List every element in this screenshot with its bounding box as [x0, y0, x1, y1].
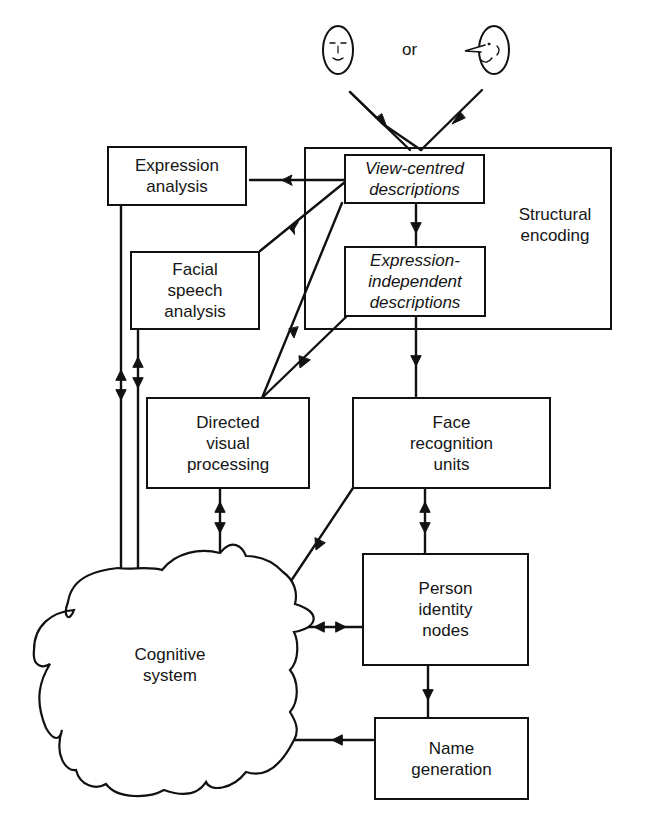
profile-face-icon [465, 26, 509, 74]
facial-speech-analysis-label: Facial speech analysis [130, 251, 260, 330]
or-label: or [402, 40, 417, 60]
cognitive-system-label: Cognitive system [110, 640, 230, 690]
directed-visual-processing-label: Directed visual processing [146, 397, 310, 489]
structural-encoding-label: Structural encoding [510, 202, 600, 248]
name-generation-label: Name generation [374, 717, 529, 800]
view-centred-descriptions-label: View-centred descriptions [344, 154, 485, 204]
expression-independent-descriptions-label: Expression- independent descriptions [344, 246, 486, 317]
expression-analysis-label: Expression analysis [107, 146, 247, 206]
person-identity-nodes-label: Person identity nodes [362, 553, 529, 666]
face-recognition-model-diagram: Structural encoding or View-centred desc… [0, 0, 670, 830]
face-recognition-units-label: Face recognition units [352, 397, 551, 489]
connector-layer [0, 0, 670, 830]
front-face-icon [323, 26, 353, 74]
